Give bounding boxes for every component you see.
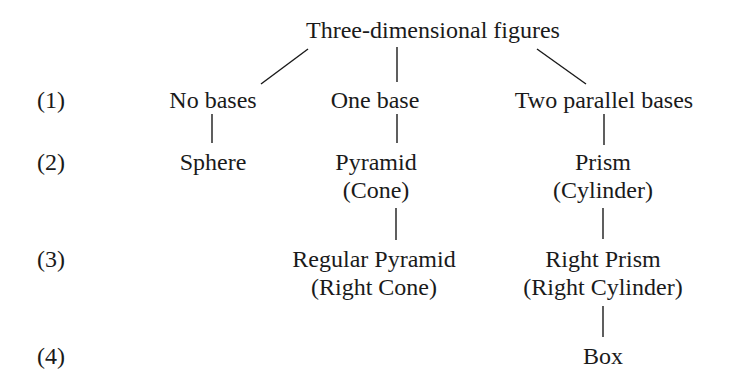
node-no-bases: No bases	[169, 86, 256, 114]
edge-root-no-bases	[261, 49, 308, 84]
node-right-cone: (Right Cone)	[311, 273, 437, 301]
node-cone: (Cone)	[343, 176, 410, 204]
node-box: Box	[583, 342, 623, 370]
level-label-4: (4)	[37, 342, 65, 370]
node-pyramid: Pyramid	[335, 148, 416, 176]
node-prism: Prism	[575, 148, 631, 176]
node-two-parallel-bases: Two parallel bases	[515, 86, 693, 114]
level-label-2: (2)	[37, 148, 65, 176]
level-label-3: (3)	[37, 245, 65, 273]
node-regular-pyramid: Regular Pyramid	[292, 245, 455, 273]
root-title: Three-dimensional figures	[306, 16, 560, 44]
node-right-prism: Right Prism	[545, 245, 660, 273]
node-right-cylinder: (Right Cylinder)	[523, 273, 682, 301]
level-label-1: (1)	[37, 86, 65, 114]
node-sphere: Sphere	[180, 148, 247, 176]
node-cylinder: (Cylinder)	[553, 176, 653, 204]
edge-root-two-bases	[537, 49, 586, 84]
node-one-base: One base	[331, 86, 420, 114]
